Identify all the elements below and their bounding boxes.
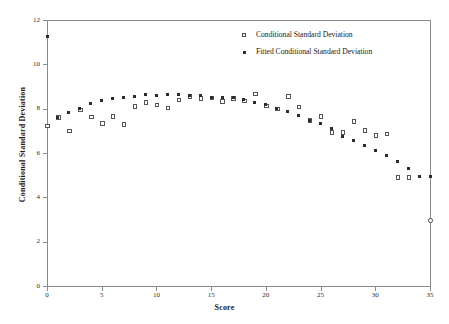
data-point-fitted <box>319 122 322 125</box>
data-point-fitted <box>89 102 92 105</box>
legend-label-fitted: Fitted Conditional Standard Deviation <box>256 47 372 56</box>
y-axis-tick-label: 0 <box>18 283 40 290</box>
data-point-fitted <box>429 175 432 178</box>
legend-item-fitted: Fitted Conditional Standard Deviation <box>236 43 426 60</box>
y-axis-tick-label: 12 <box>18 17 40 24</box>
x-axis-tick-label: 20 <box>254 292 278 299</box>
data-point-observed <box>352 119 356 123</box>
data-point-observed <box>407 175 411 179</box>
data-point-fitted <box>264 103 267 106</box>
data-point-observed <box>330 130 334 134</box>
data-point-observed <box>428 218 432 222</box>
axis-right-spine <box>430 20 431 287</box>
y-axis-tick <box>43 153 47 154</box>
chart-legend: Conditional Standard Deviation Fitted Co… <box>236 26 426 60</box>
legend-item-observed: Conditional Standard Deviation <box>236 26 426 43</box>
axis-top-spine <box>47 20 431 21</box>
data-point-fitted <box>100 99 103 102</box>
data-point-fitted <box>407 167 410 170</box>
x-axis-tick-label: 5 <box>90 292 114 299</box>
data-point-fitted <box>199 94 202 97</box>
data-point-observed <box>177 98 181 102</box>
filled-square-marker-icon <box>236 46 256 58</box>
data-point-fitted <box>352 139 355 142</box>
x-axis-tick-label: 0 <box>35 292 59 299</box>
data-point-observed <box>111 114 115 118</box>
data-point-observed <box>319 114 323 118</box>
x-axis-tick-label: 35 <box>418 292 442 299</box>
scatter-chart-figure: 02468101205101520253035 Conditional Stan… <box>0 0 449 324</box>
x-axis-tick-label: 25 <box>309 292 333 299</box>
data-point-fitted <box>275 107 278 110</box>
data-point-fitted <box>363 144 366 147</box>
y-axis-tick <box>43 197 47 198</box>
data-point-fitted <box>396 160 399 163</box>
data-point-fitted <box>177 93 180 96</box>
data-point-observed <box>253 92 257 96</box>
x-axis-title: Score <box>0 303 449 312</box>
data-point-fitted <box>385 154 388 157</box>
axis-left-spine <box>47 20 48 287</box>
data-point-observed <box>385 132 389 136</box>
data-point-fitted <box>374 149 377 152</box>
x-axis-tick-label: 15 <box>199 292 223 299</box>
data-point-observed <box>297 105 301 109</box>
data-point-fitted <box>144 93 147 96</box>
data-point-observed <box>166 106 170 110</box>
data-point-fitted <box>210 96 213 99</box>
data-point-observed <box>133 104 137 108</box>
open-square-marker-icon <box>236 29 256 41</box>
x-axis-tick-label: 30 <box>363 292 387 299</box>
data-point-fitted <box>232 96 235 99</box>
data-point-observed <box>341 130 345 134</box>
data-point-observed <box>363 128 367 132</box>
data-point-fitted <box>166 93 169 96</box>
data-point-observed <box>374 133 378 137</box>
data-point-observed <box>155 103 159 107</box>
data-point-observed <box>396 175 400 179</box>
data-point-fitted <box>155 94 158 97</box>
data-point-observed <box>144 100 148 104</box>
data-point-fitted <box>253 101 256 104</box>
data-point-fitted <box>297 114 300 117</box>
y-axis-tick <box>43 242 47 243</box>
data-point-observed <box>45 124 49 128</box>
y-axis-tick <box>43 20 47 21</box>
data-point-fitted <box>330 127 333 130</box>
data-point-fitted <box>308 119 311 122</box>
data-point-observed <box>220 99 224 103</box>
data-point-fitted <box>188 94 191 97</box>
x-axis-tick-label: 10 <box>144 292 168 299</box>
axis-bottom-spine <box>47 286 431 287</box>
data-point-fitted <box>67 111 70 114</box>
data-point-observed <box>286 94 290 98</box>
data-point-fitted <box>111 97 114 100</box>
data-point-fitted <box>242 98 245 101</box>
data-point-fitted <box>56 116 59 119</box>
data-point-fitted <box>221 96 224 99</box>
data-point-observed <box>122 122 126 126</box>
data-point-fitted <box>133 95 136 98</box>
data-point-observed <box>67 129 71 133</box>
data-point-fitted <box>286 110 289 113</box>
y-axis-tick <box>43 109 47 110</box>
data-point-fitted <box>78 107 81 110</box>
data-point-observed <box>89 115 93 119</box>
data-point-fitted <box>122 96 125 99</box>
data-point-fitted <box>341 135 344 138</box>
y-axis-title: Conditional Standard Deviation <box>18 35 27 255</box>
data-point-fitted <box>46 35 49 38</box>
legend-label-observed: Conditional Standard Deviation <box>256 30 353 39</box>
data-point-fitted <box>418 175 421 178</box>
data-point-observed <box>100 121 104 125</box>
y-axis-tick <box>43 64 47 65</box>
